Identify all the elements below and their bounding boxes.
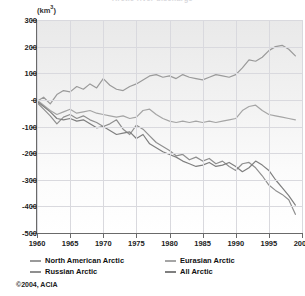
legend-swatch	[165, 271, 176, 273]
x-tick-mark	[136, 234, 137, 238]
x-tick-label: 1985	[194, 239, 211, 248]
unit-prefix: (km	[37, 6, 50, 15]
legend-item[interactable]: All Arctic	[165, 266, 292, 277]
gridline-horizontal	[37, 153, 302, 154]
x-tick-label: 1970	[95, 239, 112, 248]
x-tick-label: 1965	[62, 239, 79, 248]
y-tick-label: -400	[22, 202, 37, 211]
y-tick-label: 200	[24, 42, 37, 51]
x-tick-mark	[302, 234, 303, 238]
legend-swatch	[30, 260, 41, 262]
y-tick-label: 300	[24, 16, 37, 25]
x-tick-mark	[236, 234, 237, 238]
legend-swatch	[30, 271, 41, 273]
gridline-horizontal	[37, 47, 302, 48]
gridline-horizontal	[37, 127, 302, 128]
x-tick-label: 1990	[227, 239, 244, 248]
y-tick-label: 0	[33, 95, 37, 104]
y-axis-unit-label: (km3)	[37, 4, 56, 15]
copyright-text: ©2004, ACIA	[16, 281, 57, 288]
chart-title: Arctic river discharge	[0, 0, 305, 2]
gridline-horizontal	[37, 73, 302, 74]
y-tick-label: 100	[24, 69, 37, 78]
x-tick-mark	[203, 234, 204, 238]
plot-area	[37, 20, 302, 233]
x-tick-label: 1975	[128, 239, 145, 248]
unit-suffix: )	[53, 6, 56, 15]
x-tick-mark	[37, 234, 38, 238]
series-line	[37, 45, 295, 104]
legend-label: North American Arctic	[45, 256, 124, 265]
gridline-horizontal	[37, 206, 302, 207]
legend-label: Eurasian Arctic	[180, 256, 235, 265]
x-tick-label: 1995	[261, 239, 278, 248]
chart-figure: Arctic river discharge (km3) 3002001000-…	[0, 0, 305, 296]
gridline-vertical	[302, 20, 303, 233]
y-tick-label: -300	[22, 175, 37, 184]
legend-item[interactable]: Eurasian Arctic	[165, 255, 292, 266]
y-tick-label: -100	[22, 122, 37, 131]
x-tick-mark	[103, 234, 104, 238]
y-tick-label: -500	[22, 229, 37, 238]
gridline-horizontal	[37, 180, 302, 181]
y-tick-label: -200	[22, 149, 37, 158]
x-tick-label: 2000	[294, 239, 305, 248]
x-tick-label: 1960	[29, 239, 46, 248]
legend-label: All Arctic	[180, 267, 213, 276]
legend-label: Russian Arctic	[45, 267, 97, 276]
x-tick-mark	[70, 234, 71, 238]
chart-legend: North American ArcticEurasian ArcticRuss…	[30, 255, 292, 277]
gridline-horizontal	[37, 20, 302, 21]
gridline-horizontal	[37, 100, 302, 101]
legend-swatch	[165, 260, 176, 262]
x-tick-mark	[269, 234, 270, 238]
legend-item[interactable]: North American Arctic	[30, 255, 157, 266]
legend-item[interactable]: Russian Arctic	[30, 266, 157, 277]
x-tick-mark	[170, 234, 171, 238]
x-tick-label: 1980	[161, 239, 178, 248]
series-line	[37, 100, 295, 123]
